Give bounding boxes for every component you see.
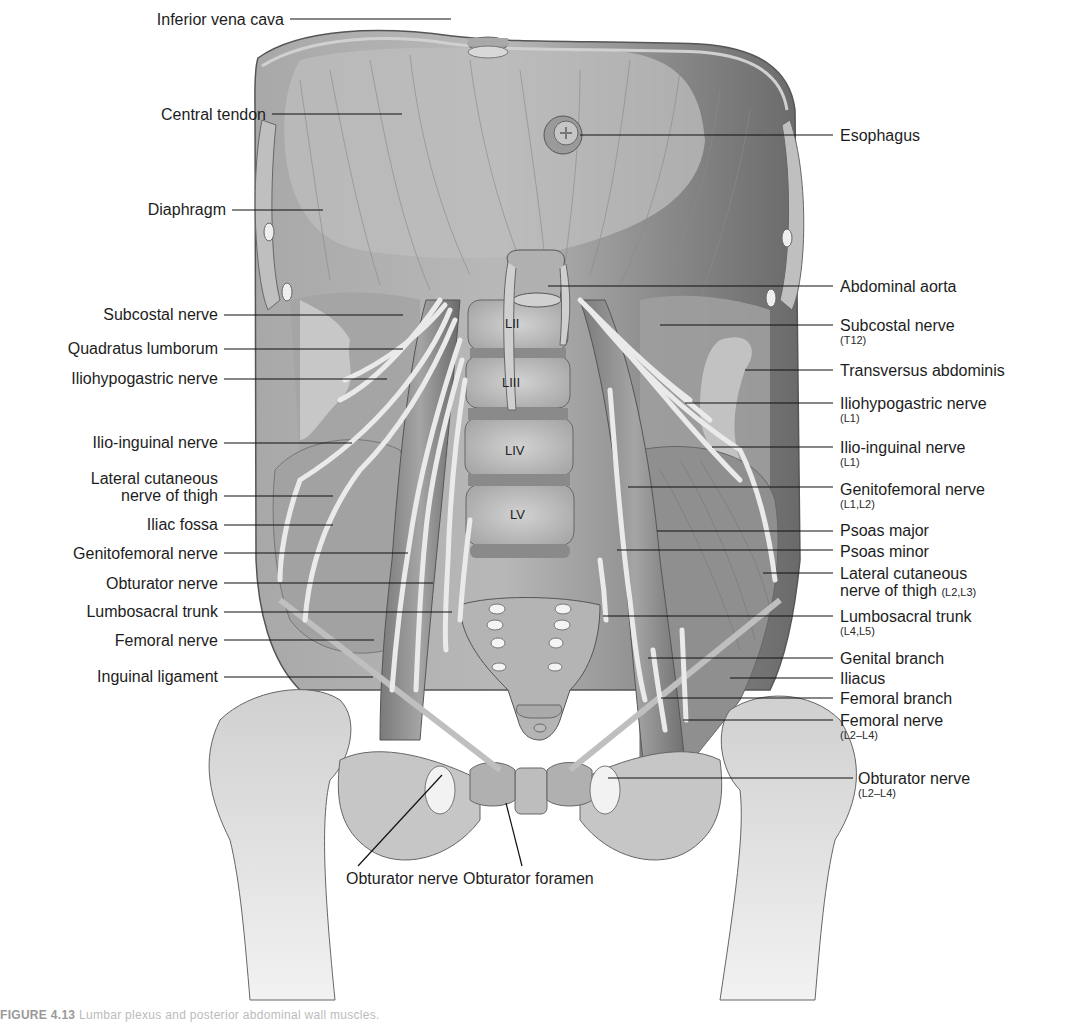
label-central-tendon: Central tendon <box>161 106 266 123</box>
label-ilio-inguinal-nerve-right: Ilio-inguinal nerve(L1) <box>840 439 965 469</box>
label-quadratus-lumborum: Quadratus lumborum <box>68 340 218 357</box>
label-obturator-nerve-bottom: Obturator nerve <box>346 870 458 887</box>
label-lateral-cutaneous-nerve-right: Lateral cutaneousnerve of thigh (L2,L3) <box>840 565 976 601</box>
caption-prefix: FIGURE 4.13 <box>0 1008 75 1022</box>
label-subcostal-nerve-right: Subcostal nerve(T12) <box>840 317 955 347</box>
label-obturator-nerve-right: Obturator nerve(L2–L4) <box>858 770 970 800</box>
vertebra-label-l4: LIV <box>505 443 525 458</box>
label-genitofemoral-nerve-left: Genitofemoral nerve <box>73 545 218 562</box>
label-abdominal-aorta: Abdominal aorta <box>840 278 957 295</box>
label-lumbosacral-trunk-right: Lumbosacral trunk(L4,L5) <box>840 608 972 638</box>
label-obturator-nerve-left: Obturator nerve <box>106 575 218 592</box>
caption-text: Lumbar plexus and posterior abdominal wa… <box>75 1008 379 1022</box>
label-psoas-major: Psoas major <box>840 522 929 539</box>
vertebra-label-l3: LIII <box>502 375 520 390</box>
inferior-vena-cava <box>468 37 508 58</box>
label-femoral-nerve-left: Femoral nerve <box>115 632 218 649</box>
label-ilio-inguinal-nerve-left: Ilio-inguinal nerve <box>93 434 218 451</box>
label-iliohypogastric-nerve-left: Iliohypogastric nerve <box>71 370 218 387</box>
label-lateral-cutaneous-nerve-left: Lateral cutaneousnerve of thigh <box>91 470 218 504</box>
label-inguinal-ligament: Inguinal ligament <box>97 668 218 685</box>
label-genitofemoral-nerve-right: Genitofemoral nerve(L1,L2) <box>840 481 985 511</box>
label-esophagus: Esophagus <box>840 127 920 144</box>
vertebra-label-l5: LV <box>510 507 525 522</box>
label-obturator-foramen: Obturator foramen <box>463 870 594 887</box>
label-subcostal-nerve-left: Subcostal nerve <box>103 306 218 323</box>
figure-caption: FIGURE 4.13 Lumbar plexus and posterior … <box>0 1008 380 1022</box>
label-inferior-vena-cava: Inferior vena cava <box>157 11 284 28</box>
label-femoral-branch: Femoral branch <box>840 690 952 707</box>
label-psoas-minor: Psoas minor <box>840 543 929 560</box>
esophagus <box>544 116 582 154</box>
label-iliacus: Iliacus <box>840 670 885 687</box>
label-diaphragm: Diaphragm <box>148 201 226 218</box>
label-lumbosacral-trunk-left: Lumbosacral trunk <box>86 603 218 620</box>
label-transversus-abdominis: Transversus abdominis <box>840 362 1005 379</box>
label-femoral-nerve-right: Femoral nerve(L2–L4) <box>840 712 943 742</box>
label-genital-branch: Genital branch <box>840 650 944 667</box>
vertebra-label-l2: LII <box>505 316 519 331</box>
label-iliohypogastric-nerve-right: Iliohypogastric nerve(L1) <box>840 395 987 425</box>
label-iliac-fossa: Iliac fossa <box>147 516 218 533</box>
